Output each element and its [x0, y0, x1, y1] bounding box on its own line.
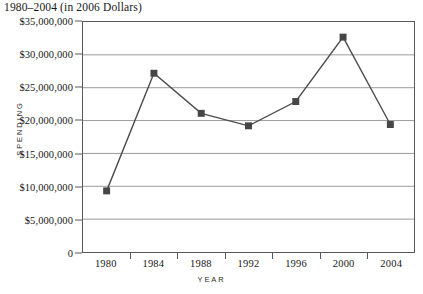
x-axis-title: YEAR — [0, 275, 423, 284]
x-tick-mark — [130, 253, 131, 259]
x-tick-mark — [367, 253, 368, 259]
x-tick-label: 2004 — [380, 258, 402, 269]
line-chart: 1980–2004 (in 2006 Dollars) 0$5,000,000$… — [0, 0, 423, 294]
x-tick-mark — [320, 253, 321, 259]
x-tick-mark — [225, 253, 226, 259]
x-axis: 1980198419881992199620002004 — [0, 0, 423, 294]
x-tick-label: 1992 — [238, 258, 260, 269]
x-tick-mark — [177, 253, 178, 259]
x-tick-label: 1996 — [285, 258, 307, 269]
x-tick-label: 2000 — [333, 258, 355, 269]
x-tick-label: 1988 — [190, 258, 212, 269]
x-tick-label: 1980 — [95, 258, 117, 269]
x-tick-label: 1984 — [142, 258, 164, 269]
x-tick-mark — [272, 253, 273, 259]
